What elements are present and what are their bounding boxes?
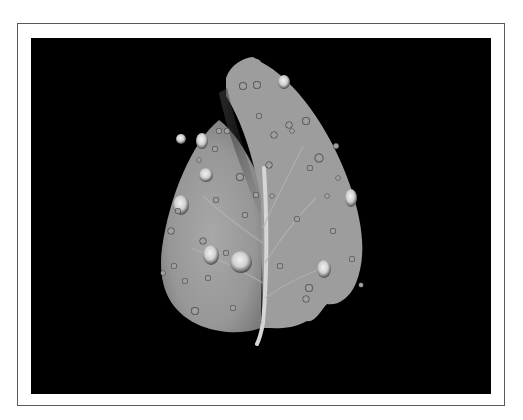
leaf-illustration <box>31 38 491 394</box>
leaf <box>161 57 362 344</box>
leaf-photograph <box>31 38 491 394</box>
